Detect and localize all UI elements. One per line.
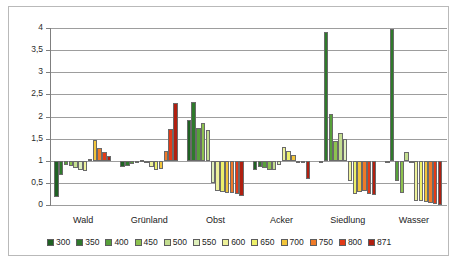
- y-axis-tick: [46, 183, 50, 184]
- bar-acker-700: [291, 155, 295, 161]
- legend-item-500[interactable]: 500: [164, 238, 187, 247]
- category-label-obst: Obst: [182, 215, 248, 225]
- bar-wasser-700: [424, 161, 428, 202]
- y-axis-tick-label: 1: [9, 156, 43, 164]
- bar-grünland-450: [135, 161, 139, 163]
- bar-wald-800: [102, 152, 106, 161]
- gridline: [50, 183, 447, 184]
- gridline: [50, 72, 447, 73]
- chart-screenshot: 00,511,522,533,54 WaldGrünlandObstAckerS…: [0, 0, 457, 262]
- bar-acker-300: [253, 161, 257, 170]
- legend-swatch-icon-750: [310, 239, 317, 246]
- bar-wasser-871: [438, 161, 442, 205]
- legend-item-400[interactable]: 400: [105, 238, 128, 247]
- bar-siedlung-500: [338, 133, 342, 160]
- bar-siedlung-300: [319, 161, 323, 163]
- bar-obst-750: [230, 161, 234, 194]
- bar-acker-750: [296, 161, 300, 163]
- legend-swatch-icon-450: [135, 239, 142, 246]
- bar-siedlung-600: [348, 161, 352, 181]
- bar-obst-300: [187, 120, 191, 161]
- legend-label: 400: [114, 238, 128, 247]
- bar-obst-400: [196, 128, 200, 161]
- legend-item-750[interactable]: 750: [310, 238, 333, 247]
- bar-wald-450: [69, 161, 73, 166]
- legend-item-871[interactable]: 871: [368, 238, 391, 247]
- bar-grünland-750: [164, 151, 168, 161]
- y-axis-tick-label: 3,5: [9, 45, 43, 53]
- legend-label: 650: [260, 238, 274, 247]
- gridline: [50, 139, 447, 140]
- y-axis-tick-label: 2,5: [9, 89, 43, 97]
- bar-acker-600: [282, 147, 286, 161]
- legend-label: 450: [144, 238, 158, 247]
- bar-grünland-650: [154, 161, 158, 171]
- legend-item-650[interactable]: 650: [251, 238, 274, 247]
- y-axis-tick: [46, 72, 50, 73]
- legend-swatch-icon-550: [193, 239, 200, 246]
- bar-siedlung-400: [329, 114, 333, 160]
- legend-swatch-icon-871: [368, 239, 375, 246]
- bar-obst-450: [201, 123, 205, 161]
- category-label-siedlung: Siedlung: [315, 215, 381, 225]
- y-axis-tick: [46, 139, 50, 140]
- legend-label: 500: [173, 238, 187, 247]
- legend-swatch-icon-700: [281, 239, 288, 246]
- y-axis-tick: [46, 205, 50, 206]
- y-axis-tick-label: 4: [9, 23, 43, 31]
- bar-wald-600: [83, 161, 87, 171]
- bar-obst-800: [235, 161, 239, 195]
- bar-acker-350: [258, 161, 262, 168]
- y-axis-tick-label: 3: [9, 67, 43, 75]
- legend-item-350[interactable]: 350: [76, 238, 99, 247]
- bar-obst-500: [206, 130, 210, 161]
- y-axis-tick: [46, 161, 50, 162]
- bar-grünland-400: [130, 161, 134, 165]
- legend-item-600[interactable]: 600: [222, 238, 245, 247]
- bar-obst-871: [239, 161, 243, 196]
- gridline: [50, 94, 447, 95]
- legend-item-800[interactable]: 800: [339, 238, 362, 247]
- legend-swatch-icon-500: [164, 239, 171, 246]
- bar-wasser-600: [414, 161, 418, 201]
- bar-grünland-700: [159, 161, 163, 169]
- bar-siedlung-450: [333, 141, 337, 160]
- legend-item-700[interactable]: 700: [281, 238, 304, 247]
- bar-wald-650: [88, 159, 92, 161]
- legend-label: 600: [231, 238, 245, 247]
- bar-acker-450: [267, 161, 271, 170]
- bar-siedlung-700: [357, 161, 361, 192]
- legend-swatch-icon-300: [47, 239, 54, 246]
- bar-wasser-750: [428, 161, 432, 203]
- bar-acker-500: [272, 161, 276, 171]
- plot-area: [50, 28, 447, 205]
- legend-label: 871: [377, 238, 391, 247]
- bar-grünland-500: [140, 160, 144, 162]
- bar-acker-400: [262, 161, 266, 169]
- gridline: [50, 28, 447, 29]
- bar-wald-700: [93, 140, 97, 160]
- legend-item-550[interactable]: 550: [193, 238, 216, 247]
- gridline: [50, 50, 447, 51]
- legend-item-450[interactable]: 450: [135, 238, 158, 247]
- legend-item-300[interactable]: 300: [47, 238, 70, 247]
- bar-grünland-600: [149, 161, 153, 167]
- bar-siedlung-800: [367, 161, 371, 194]
- legend-swatch-icon-650: [251, 239, 258, 246]
- y-axis-tick: [46, 50, 50, 51]
- bar-wasser-450: [400, 161, 404, 193]
- bar-grünland-871: [173, 103, 177, 161]
- bar-siedlung-350: [324, 32, 328, 161]
- y-axis-tick: [46, 117, 50, 118]
- legend-label: 800: [348, 238, 362, 247]
- bar-wasser-300: [385, 161, 389, 163]
- bar-wald-500: [73, 161, 77, 168]
- bar-obst-700: [225, 161, 229, 193]
- y-axis-tick-label: 1,5: [9, 134, 43, 142]
- legend-label: 750: [319, 238, 333, 247]
- chart-legend: 300350400450500550600650700750800871: [47, 236, 449, 249]
- bar-siedlung-871: [372, 161, 376, 196]
- bar-wasser-500: [404, 152, 408, 160]
- bar-wasser-550: [409, 161, 413, 163]
- legend-swatch-icon-400: [105, 239, 112, 246]
